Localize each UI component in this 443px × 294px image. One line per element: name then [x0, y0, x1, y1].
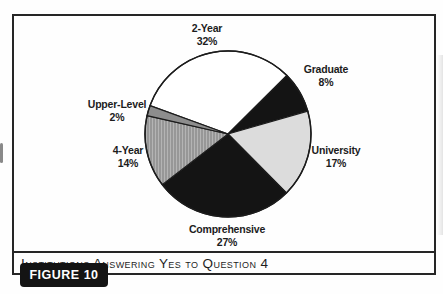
- figure-number-badge: FIGURE 10: [20, 263, 108, 287]
- scanned-figure-page: Institutions Answering Yes to Question 4…: [0, 0, 443, 294]
- figure-number-text: FIGURE 10: [29, 268, 98, 282]
- pie-chart: [0, 0, 443, 294]
